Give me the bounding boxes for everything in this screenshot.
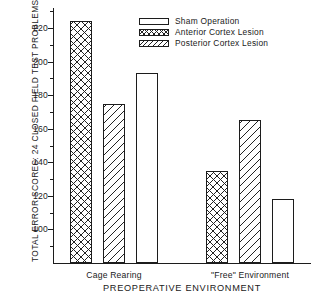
bar (103, 104, 125, 263)
y-tick-label: 140 (22, 158, 48, 167)
bar-chart-figure: TOTAL ERROR SCORES: 24 CLOSED FIELD TEST… (0, 0, 318, 300)
x-group-label: Cage Rearing (86, 270, 141, 280)
y-tick-minor (50, 112, 53, 113)
y-tick-major (48, 28, 53, 29)
legend-label: Anterior Cortex Lesion (175, 27, 264, 37)
bar (272, 199, 294, 263)
y-tick-major (48, 196, 53, 197)
y-tick-minor (50, 179, 53, 180)
x-group-label: "Free" Environment (211, 270, 289, 280)
legend-swatch-icon (139, 18, 169, 25)
y-tick-major (48, 162, 53, 163)
bar (206, 171, 228, 263)
y-tick-major (48, 229, 53, 230)
legend-swatch-icon (139, 29, 169, 36)
legend-label: Posterior Cortex Lesion (175, 38, 268, 48)
legend-item: Anterior Cortex Lesion (139, 27, 309, 38)
y-tick-minor (50, 11, 53, 12)
y-tick-label: 160 (22, 125, 48, 134)
y-tick-minor (50, 78, 53, 79)
bar (239, 120, 261, 263)
y-axis-line (53, 8, 54, 264)
y-axis-tick-labels: 100120140160180200220 (18, 0, 48, 300)
chart-legend: Sham OperationAnterior Cortex LesionPost… (139, 16, 309, 49)
y-tick-label: 100 (22, 225, 48, 234)
x-axis-line (53, 263, 311, 264)
y-tick-minor (50, 45, 53, 46)
legend-item: Posterior Cortex Lesion (139, 38, 309, 49)
y-tick-label: 180 (22, 91, 48, 100)
y-tick-major (48, 129, 53, 130)
y-tick-label: 120 (22, 192, 48, 201)
y-tick-minor (50, 213, 53, 214)
y-tick-major (48, 62, 53, 63)
legend-swatch-icon (139, 40, 169, 47)
y-tick-minor (50, 246, 53, 247)
legend-item: Sham Operation (139, 16, 309, 27)
y-tick-label: 200 (22, 58, 48, 67)
y-tick-minor (50, 146, 53, 147)
legend-label: Sham Operation (175, 16, 240, 26)
y-tick-major (48, 95, 53, 96)
x-axis-title: PREOPERATIVE ENVIRONMENT (53, 283, 311, 293)
bar (70, 21, 92, 263)
y-tick-label: 220 (22, 24, 48, 33)
bar (136, 73, 158, 263)
